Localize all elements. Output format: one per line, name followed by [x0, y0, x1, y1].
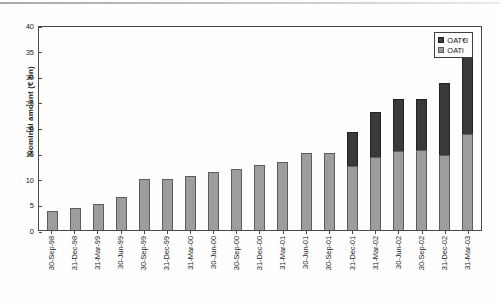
x-axis-label-slot: 31-Dec-99	[156, 236, 179, 300]
x-axis-label: 31-Dec-01	[349, 236, 357, 270]
bar-slot	[156, 27, 179, 230]
x-axis-tick	[457, 231, 480, 235]
x-axis-label: 31-Dec-00	[256, 236, 264, 270]
x-axis-tick	[341, 231, 364, 235]
x-axis-label-slot: 30-Sep-02	[411, 236, 434, 300]
bar-30-Sep-02	[416, 99, 427, 230]
x-tick-mark	[468, 231, 469, 234]
x-tick-mark	[190, 231, 191, 234]
bar-31-Dec-99	[162, 179, 173, 230]
bar-segment-oat-i	[254, 165, 265, 230]
legend-swatch-light-icon	[438, 47, 444, 53]
bar-30-Jun-01	[301, 153, 312, 230]
x-axis-tick	[411, 231, 434, 235]
x-tick-mark	[51, 231, 52, 234]
bar-segment-oat-i	[116, 197, 127, 230]
x-tick-mark	[167, 231, 168, 234]
x-tick-mark	[283, 231, 284, 234]
bar-slot	[110, 27, 133, 230]
bar-segment-oat-i	[301, 153, 312, 230]
bar-segment-oat-i	[139, 179, 150, 230]
bar-30-Sep-01	[324, 153, 335, 230]
x-tick-mark	[445, 231, 446, 234]
bar-segment-oat-i	[47, 211, 58, 230]
bar-segment-oat-euro-i	[393, 99, 404, 150]
bar-segment-oat-i	[93, 204, 104, 230]
bar-segment-oat-i	[370, 157, 381, 230]
bar-segment-oat-euro-i	[462, 57, 473, 133]
x-axis-tick	[63, 231, 86, 235]
x-tick-mark	[259, 231, 260, 234]
bar-31-Dec-02	[439, 83, 450, 230]
bar-segment-oat-i	[393, 151, 404, 230]
y-tick-label: 40	[8, 22, 34, 31]
bar-slot	[387, 27, 410, 230]
x-axis-label-slot: 30-Sep-01	[318, 236, 341, 300]
x-tick-mark	[74, 231, 75, 234]
bar-30-Sep-00	[231, 169, 242, 231]
bar-30-Jun-99	[116, 197, 127, 230]
x-axis-label-slot: 31-Dec-00	[248, 236, 271, 300]
x-axis-label-slot: 30-Jun-99	[109, 236, 132, 300]
bar-segment-oat-i	[185, 176, 196, 230]
bar-segment-oat-i	[231, 169, 242, 231]
x-tick-mark	[306, 231, 307, 234]
bar-segment-oat-i	[439, 155, 450, 230]
x-axis-label-slot: 30-Sep-00	[225, 236, 248, 300]
x-axis-tick	[295, 231, 318, 235]
bar-slot	[225, 27, 248, 230]
x-axis-label-slot: 30-Jun-01	[295, 236, 318, 300]
y-tick-label: 30	[8, 73, 34, 82]
legend-item-oat-euro-i: OAT€i	[438, 35, 468, 45]
x-axis-label-slot: 31-Dec-98	[63, 236, 86, 300]
x-tick-mark	[97, 231, 98, 234]
x-axis-label-slot: 31-Mar-03	[457, 236, 480, 300]
x-tick-mark	[121, 231, 122, 234]
x-axis-tick	[364, 231, 387, 235]
x-tick-mark	[375, 231, 376, 234]
x-axis-label-slot: 30-Sep-99	[133, 236, 156, 300]
x-tick-mark	[422, 231, 423, 234]
bar-slot	[64, 27, 87, 230]
x-tick-mark	[213, 231, 214, 234]
legend-label: OATi	[447, 46, 463, 55]
x-tick-mark	[352, 231, 353, 234]
bar-segment-oat-i	[347, 166, 358, 230]
y-tick-label: 0	[8, 227, 34, 236]
x-axis-label: 31-Dec-99	[163, 236, 171, 270]
bar-31-Mar-99	[93, 204, 104, 230]
x-axis-tick	[387, 231, 410, 235]
bar-segment-oat-i	[162, 179, 173, 230]
x-axis-label: 31-Mar-02	[372, 236, 380, 270]
plot-area: 0510152025303540 OAT€i OATi	[38, 26, 482, 231]
bar-31-Dec-01	[347, 132, 358, 230]
x-axis-tick	[40, 231, 63, 235]
x-axis-label: 30-Sep-99	[140, 236, 148, 270]
legend: OAT€i OATi	[434, 32, 473, 58]
x-axis-label-slot: 30-Jun-00	[202, 236, 225, 300]
x-tick-mark	[236, 231, 237, 234]
x-axis-label-slot: 31-Dec-01	[341, 236, 364, 300]
bar-slot	[248, 27, 271, 230]
x-axis-label-slot: 30-Sep-98	[40, 236, 63, 300]
x-axis-tick	[434, 231, 457, 235]
x-axis-label: 30-Jun-01	[302, 236, 310, 269]
y-tick-label: 20	[8, 125, 34, 134]
y-tick-label: 5	[8, 201, 34, 210]
x-axis-tick	[156, 231, 179, 235]
x-axis-tick	[202, 231, 225, 235]
x-axis-label-slot: 30-Jun-02	[387, 236, 410, 300]
bar-segment-oat-i	[277, 162, 288, 230]
bar-31-Mar-01	[277, 162, 288, 230]
chart-figure: Nominal amount (€ bn) 0510152025303540 O…	[0, 0, 500, 304]
bar-slot	[271, 27, 294, 230]
bar-31-Mar-02	[370, 112, 381, 230]
x-axis-tickmarks	[38, 231, 482, 235]
x-axis-tick	[225, 231, 248, 235]
x-axis-tick	[179, 231, 202, 235]
bar-segment-oat-i	[462, 134, 473, 230]
x-axis-label: 31-Mar-99	[94, 236, 102, 270]
y-tick-label: 35	[8, 48, 34, 57]
bar-segment-oat-i	[324, 153, 335, 230]
x-axis-tick	[109, 231, 132, 235]
